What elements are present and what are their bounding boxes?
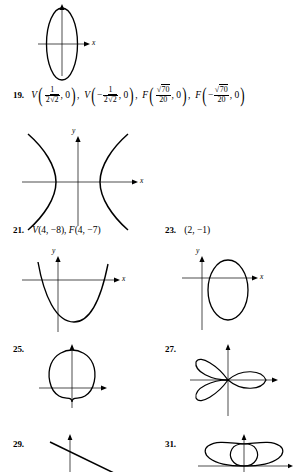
answer-23-value: (2, −1) — [184, 225, 210, 235]
answer-21-vertex-value: (4, −8) — [38, 225, 64, 235]
answer-19-part1-fraction: 1 2√2 — [103, 86, 118, 105]
answer-19: 19. V ( 1 2√2 , 0 ) , V ( − 1 2√2 , 0 ) … — [13, 86, 246, 105]
close-paren-icon: ) — [241, 88, 245, 104]
y-axis-arrow — [226, 344, 231, 350]
y-axis-arrow — [199, 256, 204, 262]
open-paren-icon: ( — [202, 88, 206, 104]
answer-19-part0-label: V — [31, 91, 37, 101]
y-axis-arrow — [59, 4, 64, 10]
y-axis-label: y — [52, 246, 55, 255]
answer-19-part0-fraction: 1 2√2 — [45, 86, 60, 105]
answer-19-part2-yvalue: 0 — [176, 91, 181, 101]
fraction-denominator: 2√2 — [45, 96, 60, 104]
x-axis-label: x — [140, 176, 143, 185]
minus-sign: − — [97, 91, 102, 101]
answer-21: 21. V(4, −8), F(4, −7) — [13, 226, 101, 236]
minus-sign: − — [208, 91, 213, 101]
fraction-denominator: 20 — [217, 96, 227, 104]
y-axis-arrow — [70, 344, 75, 350]
fraction-numerator: √70 — [156, 86, 171, 94]
answer-23: 23. (2, −1) — [165, 226, 210, 236]
graph-ellipse-shifted-right: x y — [180, 246, 290, 334]
answer-23-number: 23. — [165, 225, 176, 235]
answer-19-part1-label: V — [84, 91, 90, 101]
line-curve — [50, 442, 116, 472]
graph-parabola-up: x y — [16, 244, 146, 334]
x-axis-arrow — [114, 277, 120, 282]
y-axis-arrow — [75, 136, 80, 142]
graph-limacon-inner-loop — [192, 430, 302, 472]
graph-line-negative-slope — [38, 430, 158, 472]
answer-19-part2-label: F — [142, 91, 148, 101]
open-paren-icon: ( — [149, 88, 153, 104]
graph-rose-three-petal — [186, 340, 298, 418]
answer-19-part3-yvalue: 0 — [234, 91, 239, 101]
y-axis-label: y — [72, 126, 75, 135]
answer-19-part2-fraction: √70 20 — [156, 86, 171, 105]
fraction-denominator: 20 — [158, 96, 168, 104]
x-axis-label: x — [92, 38, 95, 47]
parabola-curve — [38, 262, 108, 322]
x-axis-arrow — [288, 464, 293, 468]
x-axis-arrow — [252, 275, 258, 280]
y-axis-arrow — [242, 434, 247, 440]
answer-21-number: 21. — [13, 225, 24, 235]
comma-separator-2: , — [135, 90, 140, 100]
rose-petal-upper-left — [196, 359, 228, 380]
open-paren-icon: ( — [91, 88, 95, 104]
close-paren-icon: ) — [182, 88, 186, 104]
x-axis-label: x — [260, 272, 263, 281]
comma-separator-1: , — [77, 90, 82, 100]
open-paren-icon: ( — [38, 88, 42, 104]
x-axis-arrow — [272, 378, 278, 383]
fraction-numerator: 1 — [49, 86, 55, 94]
close-paren-icon: ) — [130, 88, 134, 104]
fraction-numerator: √70 — [214, 86, 229, 94]
answer-19-part0-yvalue: 0 — [65, 91, 70, 101]
answer-29: 29. — [13, 440, 24, 450]
y-axis-arrow — [68, 434, 73, 440]
comma-separator-3: , — [188, 90, 193, 100]
y-axis-label: y — [196, 246, 199, 255]
answer-27: 27. — [165, 345, 176, 355]
answer-19-part3-fraction: √70 20 — [214, 86, 229, 105]
graph-ellipse-vertical-top: x — [34, 2, 134, 80]
answer-19-number: 19. — [13, 90, 24, 100]
y-axis-arrow — [55, 256, 60, 262]
x-axis-arrow — [132, 179, 138, 184]
x-axis-arrow — [84, 41, 90, 46]
answer-27-number: 27. — [165, 344, 176, 354]
answer-25-number: 25. — [13, 344, 24, 354]
graph-cardioid-up — [35, 340, 135, 410]
rose-petal-lower-left — [196, 380, 228, 401]
answer-19-part3-label: F — [195, 91, 201, 101]
answer-21-focus-value: (4, −7) — [75, 225, 101, 235]
close-paren-icon: ) — [71, 88, 75, 104]
x-axis-arrow — [101, 386, 107, 391]
fraction-numerator: 1 — [108, 86, 114, 94]
answer-29-number: 29. — [13, 439, 24, 449]
x-axis-label: x — [122, 274, 125, 283]
answer-19-part1-yvalue: 0 — [123, 91, 128, 101]
answer-31: 31. — [165, 440, 176, 450]
ellipse-curve — [208, 260, 248, 320]
answer-25: 25. — [13, 345, 24, 355]
answer-31-number: 31. — [165, 439, 176, 449]
fraction-denominator: 2√2 — [103, 96, 118, 104]
graph-hyperbola-horizontal: x y — [20, 124, 180, 228]
